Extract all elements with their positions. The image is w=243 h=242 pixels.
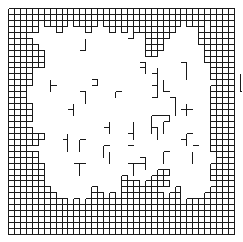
lattice-bonds (9, 9, 243, 235)
lattice-svg (0, 0, 242, 242)
grid-diagram (0, 0, 242, 242)
